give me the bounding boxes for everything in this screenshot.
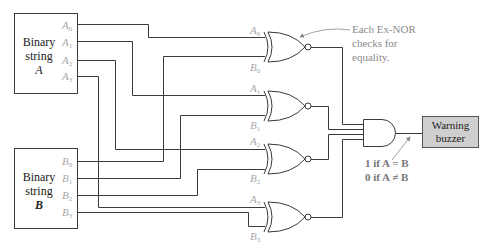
buzzer-label-line1: Warning	[432, 119, 470, 131]
comparator-diagram: Binary string A A0 A1 A2 A3 Binary strin…	[0, 0, 491, 252]
box-a-label-line1: Binary	[23, 35, 56, 49]
xnor-annotation: Each Ex-NOR checks for equality.	[300, 23, 417, 63]
and-gate	[364, 120, 396, 147]
output-note-line1: 1 if A = B	[365, 157, 409, 169]
annotation-line3: equality.	[352, 51, 390, 63]
box-b-label-line1: Binary	[23, 170, 56, 184]
gate1-input-a-label: A1	[249, 82, 261, 96]
box-a-label-line3: A	[34, 63, 43, 77]
box-b-label-line2: string	[25, 184, 52, 198]
box-a-label-line2: string	[25, 49, 52, 63]
box-b-label-line3: B	[34, 198, 43, 212]
xnor-gate-2	[264, 144, 311, 174]
annotation-line2: checks for	[352, 37, 398, 49]
xnor-gate-3	[264, 202, 311, 232]
gate3-input-a-label: A3	[249, 193, 261, 207]
xnor-gate-0	[264, 32, 311, 62]
xnor-gate-1	[264, 91, 311, 121]
gate1-input-b-label: B1	[250, 119, 261, 133]
gate0-input-a-label: A0	[249, 24, 261, 38]
gate3-input-b-label: B3	[250, 230, 261, 244]
xnor-output-wires	[311, 48, 364, 218]
annotation-arrow-icon	[300, 29, 350, 37]
gate2-input-b-label: B2	[250, 172, 261, 186]
warning-buzzer: Warning buzzer	[423, 117, 479, 148]
annotation-line1: Each Ex-NOR	[352, 23, 417, 35]
wires-b	[77, 57, 265, 227]
gate2-input-a-label: A2	[249, 135, 261, 149]
output-note-line2: 0 if A ≠ B	[365, 171, 409, 183]
gate0-input-b-label: B0	[250, 61, 261, 75]
buzzer-label-line2: buzzer	[436, 132, 466, 144]
